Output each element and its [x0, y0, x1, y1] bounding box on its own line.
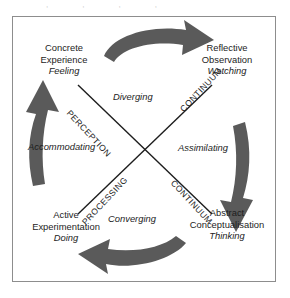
stage-line-2: Conceptualisation: [176, 219, 278, 231]
stage-verb: Doing: [16, 232, 116, 244]
learning-style-assimilating: Assimilating: [178, 142, 228, 153]
stage-line-1: Reflective: [178, 42, 276, 54]
stage-concrete-experience: Concrete Experience Feeling: [18, 42, 110, 77]
diagram-canvas: ,,,, Concrete Experience Feeling Reflect…: [0, 0, 290, 298]
stage-verb: Feeling: [18, 65, 110, 77]
learning-style-converging: Converging: [108, 213, 156, 224]
learning-style-accommodating: Accommodating: [28, 141, 95, 152]
arrow-left: [26, 80, 59, 186]
stage-line-2: Observation: [178, 54, 276, 66]
stage-verb: Thinking: [176, 230, 278, 242]
stage-reflective-observation: Reflective Observation Watching: [178, 42, 276, 77]
stage-line-2: Experience: [18, 54, 110, 66]
stage-abstract-conceptualisation: Abstract Conceptualisation Thinking: [176, 207, 278, 242]
stage-verb: Watching: [178, 65, 276, 77]
learning-style-diverging: Diverging: [113, 91, 153, 102]
stage-line-1: Concrete: [18, 42, 110, 54]
stage-active-experimentation: Active Experimentation Doing: [16, 209, 116, 244]
stage-line-2: Experimentation: [16, 221, 116, 233]
